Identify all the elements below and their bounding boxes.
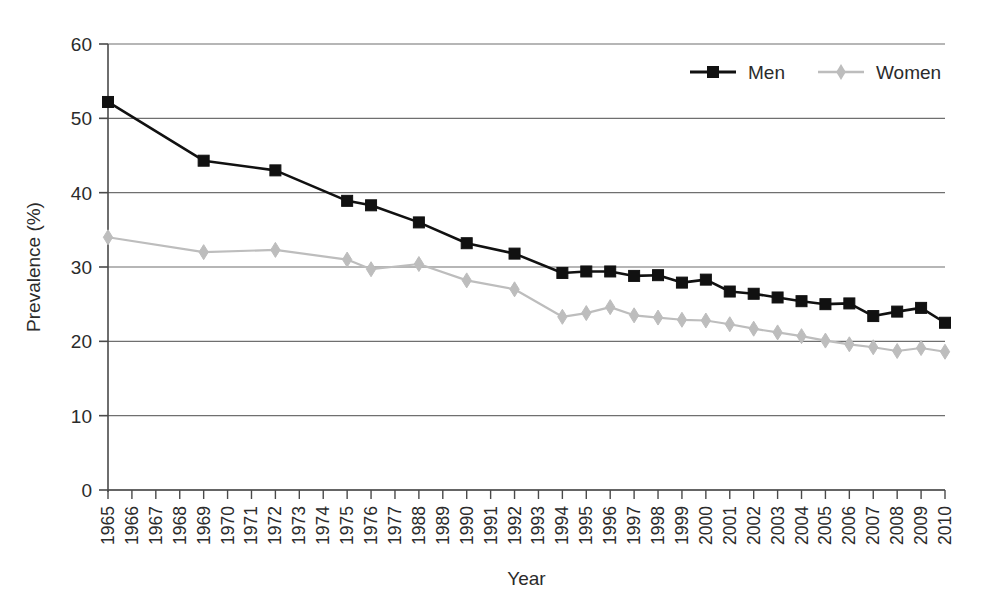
y-tick-label: 50 bbox=[71, 108, 92, 129]
data-point-marker bbox=[342, 195, 353, 206]
data-point-marker bbox=[844, 298, 855, 309]
x-tick-label: 1966 bbox=[122, 506, 142, 545]
x-tick-label: 1969 bbox=[194, 506, 214, 545]
x-tick-label: 1996 bbox=[600, 506, 620, 545]
x-tick-label: 2009 bbox=[911, 506, 931, 545]
x-tick-label: 1965 bbox=[98, 506, 118, 545]
y-axis-title: Prevalence (%) bbox=[23, 202, 44, 332]
data-point-marker bbox=[581, 266, 592, 277]
x-tick-label: 1975 bbox=[337, 506, 357, 545]
data-point-marker bbox=[509, 248, 520, 259]
data-point-marker bbox=[748, 288, 759, 299]
data-point-marker bbox=[916, 302, 927, 313]
y-tick-label: 40 bbox=[71, 183, 92, 204]
x-tick-label: 1997 bbox=[624, 506, 644, 545]
x-tick-label: 1994 bbox=[552, 506, 572, 545]
x-tick-label: 1970 bbox=[218, 506, 238, 545]
data-point-marker bbox=[653, 270, 664, 281]
x-tick-label: 2000 bbox=[696, 506, 716, 545]
data-point-marker bbox=[557, 267, 568, 278]
x-tick-label: 1988 bbox=[409, 506, 429, 545]
legend-label-women: Women bbox=[876, 62, 941, 83]
x-tick-label: 1989 bbox=[433, 506, 453, 545]
x-tick-label: 1976 bbox=[361, 506, 381, 545]
y-tick-label: 10 bbox=[71, 406, 92, 427]
data-point-marker bbox=[868, 311, 879, 322]
x-tick-label: 1999 bbox=[672, 506, 692, 545]
data-point-marker bbox=[676, 277, 687, 288]
y-tick-label: 30 bbox=[71, 257, 92, 278]
x-tick-label: 1967 bbox=[146, 506, 166, 545]
data-point-marker bbox=[198, 155, 209, 166]
data-point-marker bbox=[772, 292, 783, 303]
x-tick-label: 1993 bbox=[528, 506, 548, 545]
x-tick-label: 1977 bbox=[385, 506, 405, 545]
data-point-marker bbox=[796, 296, 807, 307]
data-point-marker bbox=[629, 270, 640, 281]
x-tick-label: 1973 bbox=[289, 506, 309, 545]
x-tick-label: 2004 bbox=[792, 506, 812, 545]
x-tick-label: 2010 bbox=[935, 506, 955, 545]
y-tick-label: 20 bbox=[71, 331, 92, 352]
x-tick-label: 1991 bbox=[481, 506, 501, 545]
x-tick-label: 1971 bbox=[241, 506, 261, 545]
chart-figure: 0102030405060 19651966196719681969197019… bbox=[0, 0, 992, 616]
x-tick-label: 2001 bbox=[720, 506, 740, 545]
x-tick-label: 1968 bbox=[170, 506, 190, 545]
legend-label-men: Men bbox=[748, 62, 785, 83]
x-tick-label: 1998 bbox=[648, 506, 668, 545]
x-tick-label: 2003 bbox=[768, 506, 788, 545]
data-point-marker bbox=[270, 165, 281, 176]
x-tick-label: 1995 bbox=[576, 506, 596, 545]
data-point-marker bbox=[940, 317, 951, 328]
data-point-marker bbox=[892, 306, 903, 317]
x-tick-label: 2002 bbox=[744, 506, 764, 545]
legend-marker-square bbox=[707, 66, 719, 78]
x-tick-label: 2005 bbox=[815, 506, 835, 545]
x-tick-label: 1990 bbox=[457, 506, 477, 545]
data-point-marker bbox=[724, 286, 735, 297]
x-tick-label: 1992 bbox=[505, 506, 525, 545]
x-tick-label: 1972 bbox=[265, 506, 285, 545]
data-point-marker bbox=[605, 266, 616, 277]
x-axis-title: Year bbox=[507, 568, 546, 589]
data-point-marker bbox=[366, 200, 377, 211]
prevalence-line-chart: 0102030405060 19651966196719681969197019… bbox=[0, 0, 992, 616]
y-tick-label: 0 bbox=[81, 480, 92, 501]
x-tick-label: 2007 bbox=[863, 506, 883, 545]
x-tick-label: 2008 bbox=[887, 506, 907, 545]
x-tick-label: 2006 bbox=[839, 506, 859, 545]
data-point-marker bbox=[103, 96, 114, 107]
x-tick-label: 1974 bbox=[313, 506, 333, 545]
data-point-marker bbox=[461, 238, 472, 249]
data-point-marker bbox=[820, 299, 831, 310]
data-point-marker bbox=[700, 274, 711, 285]
y-tick-label: 60 bbox=[71, 34, 92, 55]
data-point-marker bbox=[413, 217, 424, 228]
